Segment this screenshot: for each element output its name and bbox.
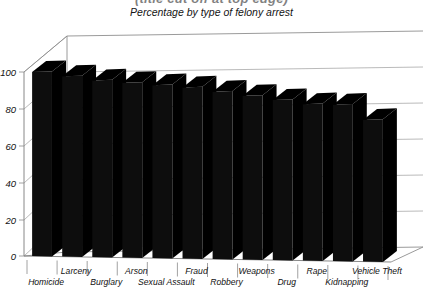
bar-front-face — [152, 85, 172, 259]
bar — [183, 76, 217, 259]
bar-front-face — [303, 104, 323, 261]
x-tick-label: Vehicle Theft — [352, 266, 402, 276]
x-tick-label: Larceny — [61, 266, 92, 276]
bar-front-face — [363, 119, 383, 262]
bar-front-face — [122, 82, 142, 258]
y-tick-label: 20 — [4, 215, 16, 226]
bar — [273, 88, 307, 260]
bar-front-face — [243, 95, 263, 260]
bar — [243, 84, 277, 260]
chart-plot-svg: 100 80 60 40 20 0 HomicideLarcenyBurglar… — [0, 0, 423, 293]
bar-front-face — [183, 87, 203, 259]
bar — [363, 108, 397, 262]
y-tick-label: 100 — [0, 67, 17, 78]
bar — [32, 60, 66, 256]
bar-front-face — [92, 80, 112, 258]
back-wall-top-edge — [67, 31, 423, 36]
bar — [152, 74, 186, 259]
x-tick-label: Burglary — [90, 277, 123, 287]
x-tick-label: Kidnapping — [325, 277, 368, 287]
bar — [62, 65, 96, 257]
x-tick-label: Fraud — [185, 266, 208, 276]
bar-side-face — [383, 108, 397, 262]
x-tick-label: Arson — [124, 266, 148, 276]
bar-front-face — [62, 76, 82, 257]
bar — [92, 69, 126, 258]
x-tick-label: Sexual Assault — [138, 277, 195, 287]
bar — [213, 80, 247, 259]
x-tick-label: Robbery — [210, 277, 243, 287]
y-axis-tick-labels: 100 80 60 40 20 0 — [0, 67, 17, 262]
x-tick-label: Rape — [307, 266, 328, 276]
y-tick-label: 80 — [5, 104, 16, 115]
bar-front-face — [273, 99, 293, 260]
y-tick-label: 0 — [11, 251, 17, 262]
bar-series — [32, 60, 397, 261]
bar — [333, 93, 367, 261]
y-tick-label: 60 — [5, 141, 16, 152]
bar-front-face — [333, 104, 353, 261]
bar — [122, 71, 156, 258]
bar-front-face — [32, 71, 52, 256]
x-tick-label: Drug — [277, 277, 296, 287]
chart-container: (title cut off at top edge) Percentage b… — [0, 0, 423, 293]
x-tick-label: Homicide — [28, 277, 64, 287]
y-tick-label: 40 — [5, 178, 16, 189]
x-tick-label: Weapons — [239, 266, 276, 276]
bar-front-face — [213, 91, 233, 259]
x-axis-tick-labels: HomicideLarcenyBurglaryArsonSexual Assau… — [28, 266, 402, 287]
bar — [303, 93, 337, 261]
